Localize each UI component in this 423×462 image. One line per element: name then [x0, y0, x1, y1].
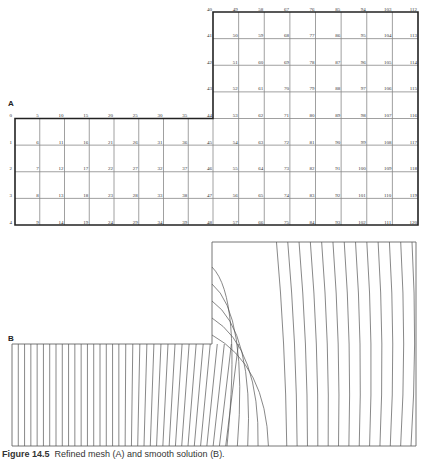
svg-text:59: 59	[258, 33, 264, 38]
svg-text:2: 2	[10, 166, 13, 171]
svg-text:11: 11	[59, 140, 64, 145]
svg-text:3: 3	[10, 193, 13, 198]
svg-text:35: 35	[182, 113, 188, 118]
svg-text:74: 74	[284, 193, 290, 198]
svg-text:104: 104	[384, 33, 392, 38]
svg-text:38: 38	[182, 193, 188, 198]
svg-text:73: 73	[284, 166, 290, 171]
svg-text:49: 49	[233, 7, 239, 12]
svg-text:19: 19	[83, 220, 89, 225]
svg-text:7: 7	[36, 166, 39, 171]
svg-text:14: 14	[59, 220, 65, 225]
svg-text:111: 111	[384, 220, 392, 225]
svg-text:28: 28	[133, 193, 139, 198]
panel-b-contours: B	[0, 232, 423, 458]
svg-text:47: 47	[207, 193, 213, 198]
svg-text:117: 117	[410, 140, 418, 145]
svg-text:106: 106	[384, 86, 392, 91]
svg-text:72: 72	[284, 140, 290, 145]
svg-text:75: 75	[284, 220, 290, 225]
svg-text:103: 103	[384, 7, 392, 12]
svg-text:44: 44	[207, 113, 213, 118]
svg-text:68: 68	[284, 33, 290, 38]
svg-text:0: 0	[10, 113, 13, 118]
svg-text:6: 6	[36, 140, 39, 145]
svg-text:54: 54	[233, 140, 239, 145]
svg-text:98: 98	[361, 113, 367, 118]
svg-text:78: 78	[310, 60, 316, 65]
contour-plot	[0, 232, 423, 458]
svg-text:25: 25	[133, 113, 139, 118]
svg-text:36: 36	[182, 140, 188, 145]
svg-text:37: 37	[182, 166, 188, 171]
svg-text:23: 23	[108, 193, 114, 198]
svg-text:114: 114	[410, 60, 418, 65]
svg-text:69: 69	[284, 60, 290, 65]
svg-text:93: 93	[335, 220, 341, 225]
svg-text:102: 102	[358, 220, 366, 225]
svg-text:63: 63	[258, 140, 264, 145]
svg-text:90: 90	[335, 140, 341, 145]
svg-text:79: 79	[310, 86, 316, 91]
svg-text:24: 24	[108, 220, 114, 225]
svg-text:31: 31	[158, 140, 164, 145]
caption-prefix: Figure 14.5	[2, 449, 50, 459]
svg-text:16: 16	[83, 140, 89, 145]
svg-text:53: 53	[233, 113, 239, 118]
svg-text:43: 43	[207, 86, 213, 91]
caption-text: Refined mesh (A) and smooth solution (B)…	[55, 449, 225, 459]
svg-text:96: 96	[361, 60, 367, 65]
svg-text:83: 83	[310, 193, 316, 198]
svg-text:33: 33	[158, 193, 164, 198]
svg-text:81: 81	[310, 140, 316, 145]
svg-text:55: 55	[233, 166, 239, 171]
svg-text:30: 30	[158, 113, 164, 118]
svg-text:56: 56	[233, 193, 239, 198]
svg-text:109: 109	[384, 166, 392, 171]
panel-a-label: A	[8, 99, 14, 108]
svg-text:77: 77	[310, 33, 316, 38]
svg-text:65: 65	[258, 193, 264, 198]
svg-text:57: 57	[233, 220, 239, 225]
svg-text:45: 45	[207, 140, 213, 145]
svg-text:99: 99	[361, 140, 367, 145]
svg-text:12: 12	[59, 166, 65, 171]
svg-text:5: 5	[36, 113, 39, 118]
svg-text:107: 107	[384, 113, 392, 118]
svg-text:46: 46	[207, 166, 213, 171]
mesh-grid: 4041424349505152535455565758596061626364…	[0, 0, 423, 232]
svg-text:66: 66	[258, 220, 264, 225]
panel-b-label: B	[8, 334, 14, 343]
svg-text:10: 10	[59, 113, 65, 118]
svg-text:50: 50	[233, 33, 239, 38]
svg-text:64: 64	[258, 166, 264, 171]
svg-text:42: 42	[207, 60, 213, 65]
svg-text:84: 84	[310, 220, 316, 225]
svg-text:76: 76	[310, 7, 316, 12]
svg-text:8: 8	[36, 193, 39, 198]
svg-text:61: 61	[258, 86, 264, 91]
svg-text:97: 97	[361, 86, 367, 91]
svg-text:15: 15	[83, 113, 89, 118]
svg-text:113: 113	[410, 33, 418, 38]
svg-text:116: 116	[410, 113, 418, 118]
svg-text:105: 105	[384, 60, 392, 65]
svg-text:88: 88	[335, 86, 341, 91]
svg-text:41: 41	[207, 33, 213, 38]
svg-text:118: 118	[410, 166, 418, 171]
svg-text:70: 70	[284, 86, 290, 91]
svg-text:80: 80	[310, 113, 316, 118]
svg-text:62: 62	[258, 113, 264, 118]
svg-text:60: 60	[258, 60, 264, 65]
svg-text:58: 58	[258, 7, 264, 12]
svg-text:18: 18	[83, 193, 89, 198]
svg-text:101: 101	[358, 193, 366, 198]
svg-text:4: 4	[10, 220, 13, 225]
svg-text:85: 85	[335, 7, 341, 12]
svg-text:51: 51	[233, 60, 239, 65]
panel-a-grid: A 40414243495051525354555657585960616263…	[0, 0, 423, 232]
svg-text:82: 82	[310, 166, 316, 171]
svg-text:52: 52	[233, 86, 239, 91]
svg-text:94: 94	[361, 7, 367, 12]
svg-text:40: 40	[207, 7, 213, 12]
